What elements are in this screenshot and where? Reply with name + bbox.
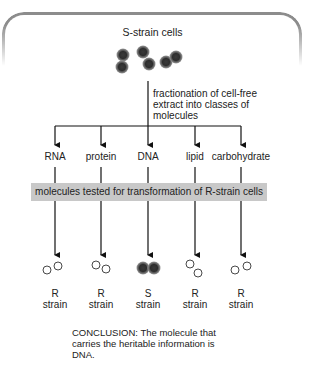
- result-word: strain: [216, 299, 266, 310]
- test-banner: molecules tested for transformation of R…: [31, 183, 267, 201]
- fractionation-label: fractionation of cell-free extract into …: [153, 88, 283, 121]
- result-letter: R: [30, 288, 80, 299]
- result-word: strain: [30, 299, 80, 310]
- r-strain-cells-icon: [92, 261, 110, 273]
- result-label-protein: R strain: [76, 288, 126, 310]
- test-arrows: [55, 167, 241, 255]
- branch-arrows: [55, 126, 241, 145]
- result-word: strain: [123, 299, 173, 310]
- s-strain-cells-icon: [116, 46, 183, 74]
- result-label-carbohydrate: R strain: [216, 288, 266, 310]
- r-strain-cells-icon: [231, 262, 251, 274]
- result-letter: R: [216, 288, 266, 299]
- molecule-label-carbohydrate: carbohydrate: [211, 151, 271, 163]
- r-strain-cells-icon: [186, 260, 202, 277]
- result-letter: R: [76, 288, 126, 299]
- result-label-lipid: R strain: [170, 288, 220, 310]
- conclusion-text: CONCLUSION: The molecule that carries th…: [72, 327, 232, 360]
- r-strain-cells-icon: [43, 262, 62, 274]
- result-letter: S: [123, 288, 173, 299]
- result-word: strain: [76, 299, 126, 310]
- result-letter: R: [170, 288, 220, 299]
- s-strain-result-cells-icon: [137, 262, 161, 275]
- result-label-rna: R strain: [30, 288, 80, 310]
- result-label-dna: S strain: [123, 288, 173, 310]
- result-word: strain: [170, 299, 220, 310]
